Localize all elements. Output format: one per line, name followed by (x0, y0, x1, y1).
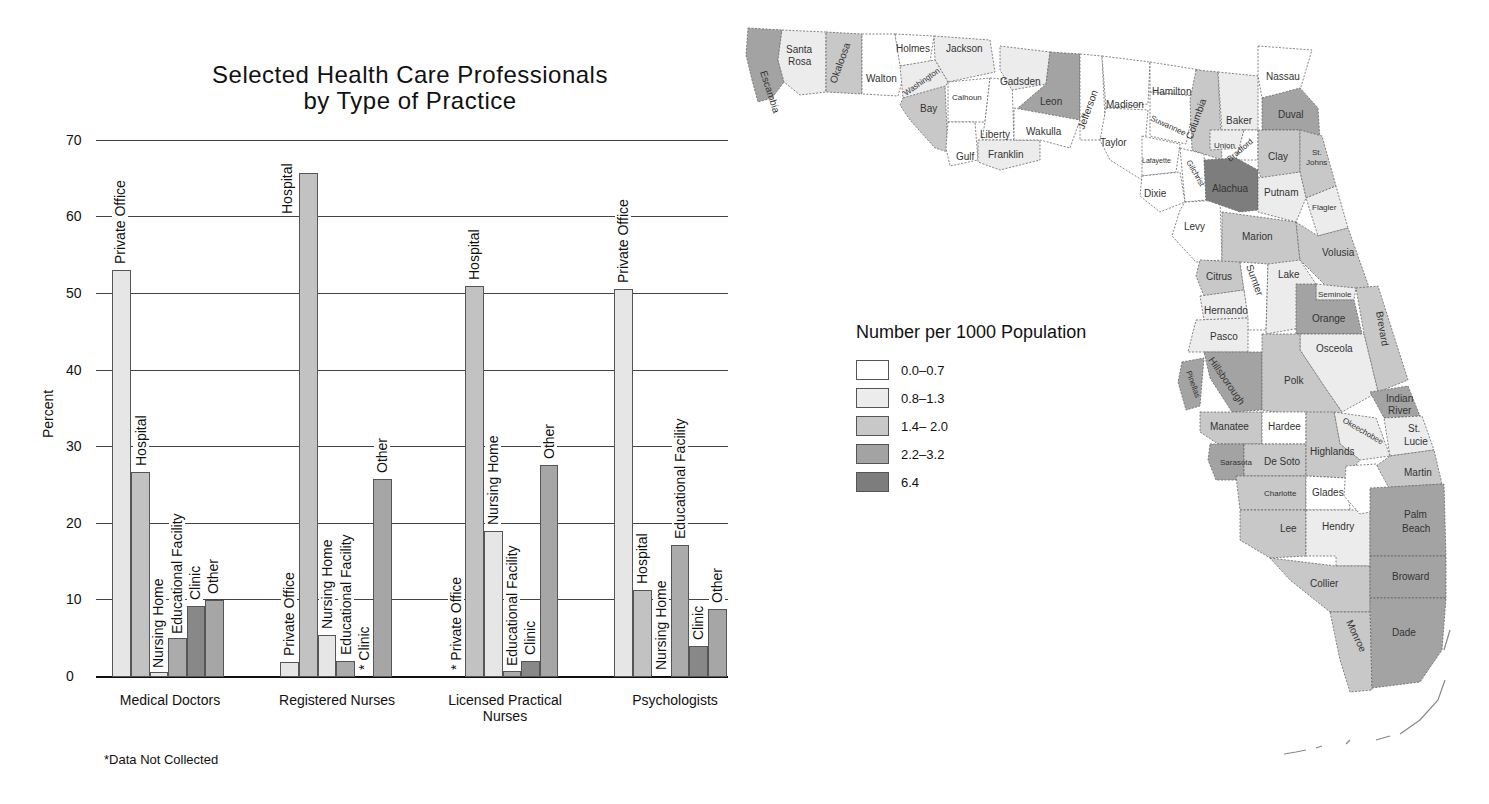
bar-psy-clinic (689, 646, 708, 677)
label-charlotte: Charlotte (1264, 489, 1297, 498)
y-tick-60: 60 (66, 208, 96, 224)
bar-lpn-other (540, 465, 558, 677)
label-marion: Marion (1242, 231, 1273, 242)
label-highlands: Highlands (1310, 446, 1354, 457)
bar-md-educational (168, 638, 187, 677)
map-svg: Santa Rosa Escambia Okaloosa Walton Holm… (740, 0, 1489, 804)
bar-label: Other (205, 557, 221, 596)
label-lee: Lee (1280, 523, 1297, 534)
bar-label: Hospital (279, 161, 295, 216)
label-johns: Johns (1306, 158, 1327, 167)
bar-label: Private Office (448, 577, 464, 661)
y-tick-40: 40 (66, 362, 96, 378)
bar-label: Nursing Home (653, 579, 669, 672)
missing-data-clinic: * Clinic (356, 624, 372, 672)
florida-county-map: Santa Rosa Escambia Okaloosa Walton Holm… (740, 0, 1489, 804)
label-broward: Broward (1392, 571, 1429, 582)
y-axis-label: Percent (40, 390, 56, 438)
bar-chart: Selected Health Care Professionals by Ty… (0, 0, 740, 804)
chart-title-line2: by Type of Practice (120, 88, 700, 114)
bar-label: Clinic (187, 564, 203, 602)
label-gadsden: Gadsden (1000, 76, 1041, 87)
label-taylor: Taylor (1100, 137, 1127, 148)
label-indian: Indian (1386, 393, 1413, 404)
bar-psy-other (708, 609, 727, 677)
y-tick-30: 30 (66, 438, 96, 454)
bar-label: Hospital (133, 413, 149, 468)
bar-label: Private Office (112, 178, 128, 266)
label-duval: Duval (1278, 109, 1304, 120)
label-flagler: Flagler (1312, 203, 1337, 212)
bar-label: Hospital (634, 531, 650, 586)
bar-md-nursing-home (150, 672, 168, 677)
gridline-40 (96, 370, 728, 371)
gridline-60 (96, 216, 728, 217)
label-hendry: Hendry (1322, 521, 1354, 532)
chart-title: Selected Health Care Professionals by Ty… (120, 62, 700, 114)
label-dade: Dade (1392, 627, 1416, 638)
county-hendry (1306, 510, 1370, 566)
bar-md-hospital (131, 472, 150, 677)
bar-rn-educational (336, 661, 355, 677)
bar-rn-other (373, 479, 392, 677)
label-sarasota: Sarasota (1220, 458, 1253, 467)
bar-label: Nursing Home (150, 577, 166, 670)
label-glades: Glades (1312, 487, 1344, 498)
bar-label: Private Office (281, 570, 297, 658)
label-osceola: Osceola (1316, 343, 1353, 354)
bar-psy-private-office (614, 289, 633, 677)
label-bay: Bay (920, 103, 937, 114)
bar-label: Nursing Home (319, 538, 335, 631)
footnote: *Data Not Collected (104, 752, 218, 767)
bar-lpn-educational (503, 671, 521, 677)
label-holmes: Holmes (896, 43, 930, 54)
label-levy: Levy (1184, 221, 1205, 232)
label-hardee: Hardee (1268, 421, 1301, 432)
chart-title-line1: Selected Health Care Professionals (120, 62, 700, 88)
bar-label: Educational Facility (504, 543, 520, 668)
gridline-30 (96, 446, 728, 447)
bar-lpn-clinic (521, 661, 540, 677)
label-lucie: Lucie (1404, 436, 1428, 447)
bar-md-clinic (187, 606, 205, 677)
label-seminole: Seminole (1318, 290, 1352, 299)
bar-md-other (205, 600, 224, 677)
y-tick-70: 70 (66, 132, 96, 148)
bar-label: Nursing Home (485, 434, 501, 527)
bar-label: Other (374, 436, 390, 475)
bar-psy-educational (671, 545, 689, 677)
y-tick-20: 20 (66, 515, 96, 531)
bar-label: Clinic (522, 619, 538, 657)
label-hamilton: Hamilton (1152, 86, 1191, 97)
label-madison: Madison (1106, 99, 1144, 110)
missing-star: * (356, 665, 372, 670)
bar-label: Other (709, 566, 725, 605)
label-baker: Baker (1226, 115, 1253, 126)
label-walton: Walton (866, 73, 897, 84)
bar-label: Educational Facility (672, 416, 688, 541)
label-leon: Leon (1040, 96, 1062, 107)
bar-label: Other (541, 422, 557, 461)
label-palm: Palm (1404, 509, 1427, 520)
bar-md-private-office (112, 270, 131, 677)
label-de-soto: De Soto (1264, 456, 1301, 467)
label-citrus: Citrus (1206, 271, 1232, 282)
label-manatee: Manatee (1210, 421, 1249, 432)
label-liberty: Liberty (980, 129, 1010, 140)
bar-label: Clinic (356, 626, 372, 660)
county-dade (1370, 598, 1446, 688)
label-wakulla: Wakulla (1026, 126, 1062, 137)
gridline-70 (96, 140, 728, 141)
category-lpn: Licensed Practical Nurses (430, 692, 580, 724)
label-jackson: Jackson (946, 43, 983, 54)
label-dixie: Dixie (1144, 188, 1167, 199)
gridline-50 (96, 293, 728, 294)
label-clay: Clay (1268, 151, 1288, 162)
label-pasco: Pasco (1210, 331, 1238, 342)
bar-label: Educational Facility (338, 532, 354, 657)
y-tick-0: 0 (66, 668, 96, 684)
label-orange: Orange (1312, 313, 1346, 324)
bar-label: Hospital (466, 227, 482, 282)
category-lpn-line1: Licensed Practical (430, 692, 580, 708)
bar-label: Educational Facility (169, 511, 185, 636)
